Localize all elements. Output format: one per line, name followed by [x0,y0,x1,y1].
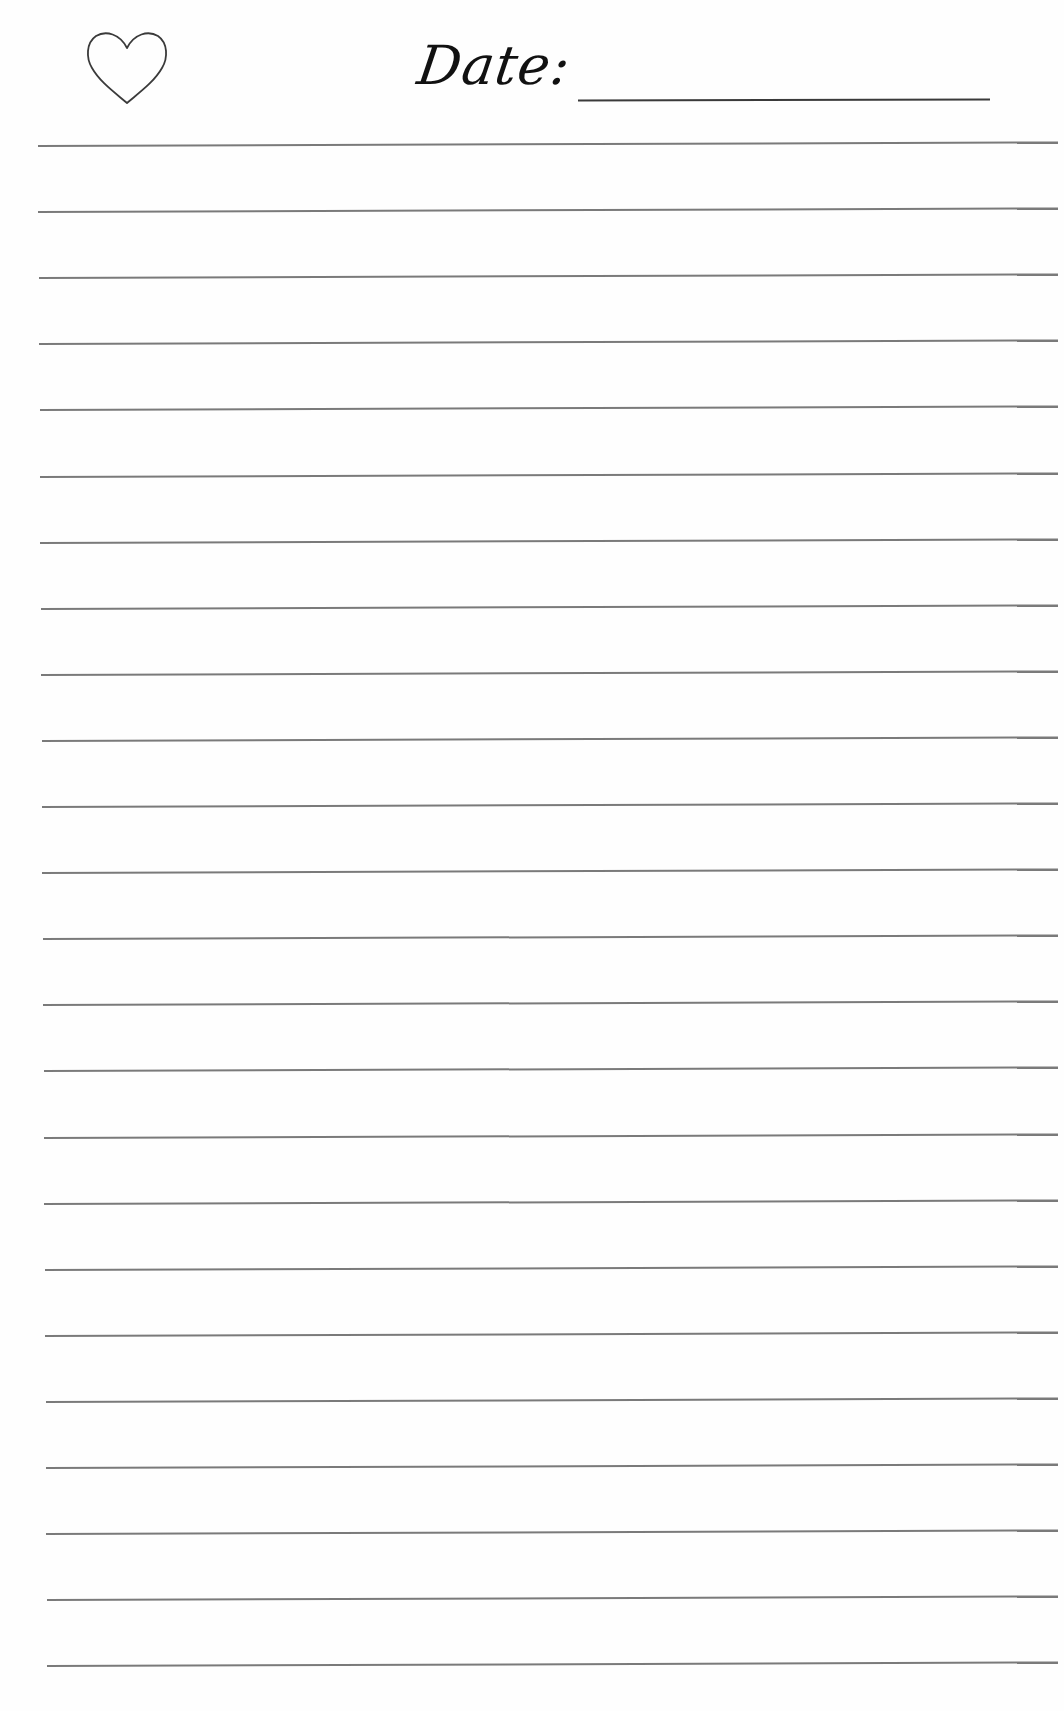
ruled-line [40,538,1058,543]
ruled-line [43,1001,1058,1006]
ruled-lines [0,0,1064,1711]
ruled-line [38,208,1058,213]
ruled-line [41,670,1058,675]
notes-page: Date: [0,0,1064,1711]
ruled-line [47,1662,1058,1667]
ruled-line [41,604,1058,609]
ruled-line [44,1199,1058,1204]
ruled-line [45,1265,1058,1270]
ruled-line [46,1530,1058,1535]
ruled-line [40,406,1058,411]
ruled-line [39,274,1058,279]
ruled-line [39,340,1058,345]
ruled-line [45,1331,1058,1336]
ruled-line [44,1133,1058,1138]
ruled-line [44,1067,1058,1072]
ruled-line [42,802,1058,807]
ruled-line [47,1596,1058,1601]
ruled-line [38,141,1058,146]
ruled-line [42,736,1058,741]
ruled-line [46,1463,1058,1468]
ruled-line [40,472,1058,477]
ruled-line [42,869,1058,874]
ruled-line [43,935,1058,940]
ruled-line [46,1397,1058,1402]
